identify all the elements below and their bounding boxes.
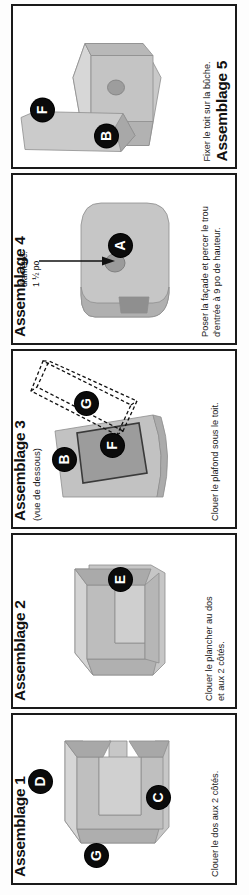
panel-4-rotated-canvas: diamètre: 1 ½ po A Poser la façade et pe… [13, 175, 235, 343]
panel-3-caption: Clouer le plafond sous le toit. [209, 403, 222, 522]
badge-letter-f: F [31, 98, 54, 121]
panel-4-caption-line2: d'entrée à 9 po de hauteur. [211, 227, 224, 337]
panel-2-rotated-canvas: E Clouer le plancher au dos et aux 2 côt… [13, 535, 235, 707]
panel-3-title: Assemblage 3 [11, 420, 29, 521]
panel-3-rotated-canvas: B F G Clouer le plafond sous le toit. As… [13, 351, 235, 527]
badge-letter-b: B [95, 124, 118, 147]
panel-5-rotated-canvas: F B Fixer le toit sur la bûche. Assembla… [13, 6, 235, 167]
panel-assemblage-1: D G C Clouer le dos aux 2 côtés. Assembl… [11, 713, 237, 885]
panel-3-subtitle: (vue de dessous) [31, 448, 42, 521]
panel-assemblage-3: B F G Clouer le plafond sous le toit. As… [11, 349, 237, 529]
badge-letter-a: A [109, 234, 132, 257]
panel-2-caption-line1: Clouer le plancher au dos [203, 596, 216, 701]
badge-letter-b: B [53, 448, 76, 471]
badge-letter-c: C [147, 786, 170, 809]
panel-1-rotated-canvas: D G C Clouer le dos aux 2 côtés. Assembl… [13, 715, 235, 883]
panel-5-title: Assemblage 5 [213, 60, 231, 161]
badge-letter-f: F [101, 434, 124, 457]
badge-letter-d: D [29, 770, 52, 793]
panel-assemblage-5: F B Fixer le toit sur la bûche. Assembla… [11, 4, 237, 169]
panel-1-caption: Clouer le dos aux 2 côtés. [209, 771, 222, 877]
badge-letter-g: G [75, 392, 98, 415]
badge-letter-g: G [85, 844, 108, 867]
panel-assemblage-2: E Clouer le plancher au dos et aux 2 côt… [11, 533, 237, 709]
panel-4-caption-line1: Poser la façade et percer le trou [199, 206, 212, 337]
instruction-sheet: F B Fixer le toit sur la bûche. Assembla… [0, 0, 249, 895]
panel-2-title: Assemblage 2 [11, 600, 29, 701]
panel-assemblage-4: diamètre: 1 ½ po A Poser la façade et pe… [11, 173, 237, 345]
badge-letter-e: E [109, 568, 132, 591]
panel-2-caption-line2: et aux 2 côtés. [215, 641, 228, 701]
panel-1-title: Assemblage 1 [11, 776, 29, 877]
panel-4-title: Assemblage 4 [11, 236, 29, 337]
panel-5-caption: Fixer le toit sur la bûche. [201, 61, 214, 161]
hole-diameter-callout-line2: 1 ½ po [31, 261, 42, 287]
